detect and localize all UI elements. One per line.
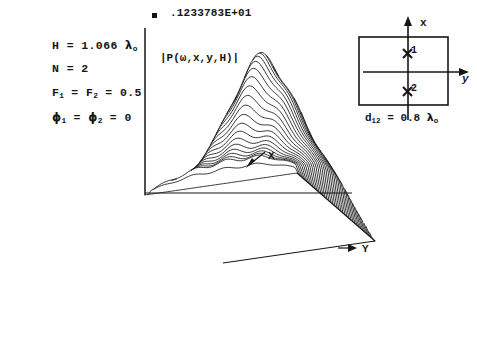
figure-canvas: .1233783E+01 H = 1.066 λo N = 2 F1 = F2 … — [0, 0, 477, 344]
base-right-edge — [297, 173, 375, 241]
inset-separation-symbol: d — [365, 112, 372, 124]
inset-separation-sub: 12 — [372, 117, 381, 125]
inset-separation-unit: λ — [427, 111, 434, 124]
inset-separation-caption: d12 = 0.8 λo — [365, 111, 438, 125]
inset-source-2-label: 2 — [411, 83, 417, 94]
base-front-edge — [223, 241, 375, 263]
inset-separation-value: 0.8 — [400, 112, 420, 124]
x-axis-label: X — [268, 150, 275, 162]
inset-y-axis-label: y — [462, 73, 469, 85]
inset-x-axis-label: x — [420, 17, 427, 29]
inset-source-1-label: 1 — [411, 45, 417, 56]
y-axis-pointer-arrow-icon — [348, 244, 357, 252]
y-axis-label: Y — [362, 243, 369, 255]
inset-separation-unit-sub: o — [434, 117, 438, 125]
inset-separation-equals: = — [387, 112, 394, 124]
inset-x-axis-arrow-icon — [404, 16, 412, 26]
